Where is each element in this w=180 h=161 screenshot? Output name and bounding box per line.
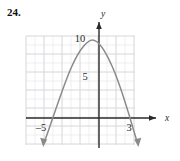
y-axis [96,22,102,148]
parabola-graph-figure: 10 5 –5 3 y x [0,0,180,161]
x-tick-label-3: 3 [126,122,131,133]
y-tick-label-10: 10 [75,33,86,44]
x-axis [26,115,156,121]
y-axis-label: y [100,9,106,19]
y-tick-label-5: 5 [82,71,87,82]
x-axis-label: x [164,113,170,123]
x-tick-label-negative-5: –5 [35,122,47,133]
